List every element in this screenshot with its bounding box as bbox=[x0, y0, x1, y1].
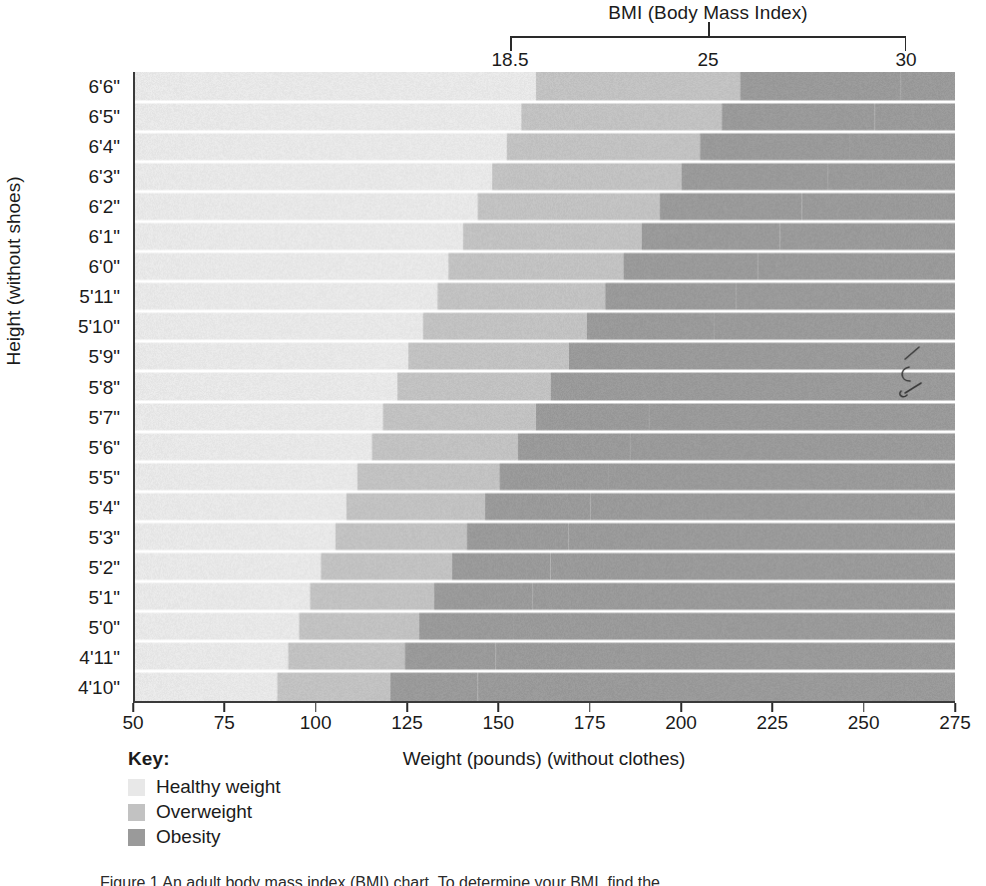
x-axis-tick bbox=[589, 703, 591, 712]
bmi-bracket-tick-middle bbox=[708, 22, 710, 36]
y-axis-tick-label: 4'11" bbox=[79, 647, 120, 669]
y-axis-tick-label: 6'6" bbox=[88, 76, 120, 98]
key-swatch bbox=[128, 829, 145, 846]
key-item: Healthy weight bbox=[128, 775, 428, 799]
chart-key: Key: Healthy weightOverweightObesity bbox=[128, 748, 428, 850]
key-label: Obesity bbox=[156, 826, 220, 848]
bmi-tick-label: 18.5 bbox=[492, 49, 529, 71]
bmi-chart-plot-area bbox=[133, 72, 955, 703]
y-axis-tick-label: 5'6" bbox=[88, 437, 120, 459]
bmi-axis-header: BMI (Body Mass Index) 18.52530 bbox=[0, 0, 986, 72]
y-axis-tick-label: 5'10" bbox=[78, 316, 120, 338]
y-axis-tick-label: 5'4" bbox=[88, 497, 120, 519]
figure-caption: Figure 1 An adult body mass index (BMI) … bbox=[100, 874, 960, 886]
y-axis-tick-label: 5'9" bbox=[88, 346, 120, 368]
x-axis-tick-label: 200 bbox=[665, 712, 697, 734]
x-axis-tick bbox=[406, 703, 408, 712]
x-axis-tick-label: 125 bbox=[391, 712, 423, 734]
y-axis-tick-label: 6'0" bbox=[88, 256, 120, 278]
bmi-axis-title: BMI (Body Mass Index) bbox=[510, 2, 906, 24]
key-item: Overweight bbox=[128, 800, 428, 824]
y-axis-tick-label: 5'1" bbox=[88, 587, 120, 609]
y-axis-tick-label: 5'0" bbox=[88, 617, 120, 639]
key-swatch bbox=[128, 779, 145, 796]
key-title: Key: bbox=[128, 748, 428, 770]
y-axis-tick-label: 6'4" bbox=[88, 136, 120, 158]
x-axis-tick-label: 75 bbox=[214, 712, 235, 734]
x-axis-ticks bbox=[133, 703, 955, 712]
x-axis-tick bbox=[132, 703, 134, 712]
x-axis-tick bbox=[224, 703, 226, 712]
y-axis-tick-label: 5'11" bbox=[79, 286, 120, 308]
y-axis-tick-label: 6'3" bbox=[88, 166, 120, 188]
x-axis-tick-label: 225 bbox=[756, 712, 788, 734]
y-axis-tick-label: 5'5" bbox=[88, 467, 120, 489]
x-axis-tick bbox=[498, 703, 500, 712]
x-axis-tick-label: 275 bbox=[939, 712, 971, 734]
y-axis-tick-label: 4'10" bbox=[78, 677, 120, 699]
x-axis-tick-label: 50 bbox=[122, 712, 143, 734]
x-axis-tick bbox=[315, 703, 317, 712]
x-axis-tick bbox=[954, 703, 956, 712]
key-item: Obesity bbox=[128, 825, 428, 849]
bmi-tick-label: 30 bbox=[895, 49, 916, 71]
key-label: Overweight bbox=[156, 801, 252, 823]
key-label: Healthy weight bbox=[156, 776, 281, 798]
bmi-tick-labels: 18.52530 bbox=[510, 49, 906, 73]
key-swatch bbox=[128, 804, 145, 821]
y-axis-tick-label: 6'2" bbox=[88, 196, 120, 218]
x-axis-tick-label: 250 bbox=[848, 712, 880, 734]
bmi-bracket-line bbox=[510, 36, 906, 38]
y-axis-tick-label: 6'1" bbox=[88, 226, 120, 248]
bmi-tick-label: 25 bbox=[697, 49, 718, 71]
x-axis-tick-label: 150 bbox=[482, 712, 514, 734]
y-axis-tick-label: 5'3" bbox=[88, 527, 120, 549]
key-rows: Healthy weightOverweightObesity bbox=[128, 775, 428, 849]
y-axis-tick-label: 5'7" bbox=[88, 407, 120, 429]
x-axis-tick-label: 175 bbox=[574, 712, 606, 734]
x-axis-tick bbox=[680, 703, 682, 712]
y-axis-tick-label: 6'5" bbox=[88, 106, 120, 128]
y-axis-tick-label: 5'2" bbox=[88, 557, 120, 579]
y-axis-tick-labels: 6'6"6'5"6'4"6'3"6'2"6'1"6'0"5'11"5'10"5'… bbox=[0, 72, 128, 703]
x-axis-tick-label: 100 bbox=[300, 712, 332, 734]
x-axis-tick bbox=[863, 703, 865, 712]
x-axis-tick-labels: 5075100125150175200225250275 bbox=[133, 712, 955, 738]
bmi-band-canvas bbox=[135, 72, 955, 701]
x-axis-tick bbox=[772, 703, 774, 712]
y-axis-tick-label: 5'8" bbox=[88, 377, 120, 399]
